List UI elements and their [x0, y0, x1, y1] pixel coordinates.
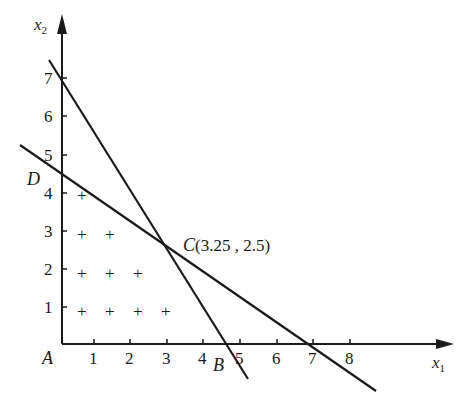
point-b-label: B	[213, 355, 224, 375]
y-tick-4: 4	[44, 184, 53, 203]
cross-marker: +	[133, 264, 143, 283]
x-tick-4: 4	[198, 349, 207, 368]
x-axis: x1 1 2 3 4 5 6 7 8	[62, 339, 454, 374]
x-tick-6: 6	[272, 349, 281, 368]
integer-points: + + + + + + + + + +	[77, 186, 171, 321]
y-tick-3: 3	[44, 222, 53, 241]
cross-marker: +	[77, 302, 87, 321]
y-tick-6: 6	[44, 107, 53, 126]
cross-marker: +	[133, 302, 143, 321]
cross-marker: +	[105, 264, 115, 283]
y-tick-7: 7	[44, 69, 53, 88]
x-tick-8: 8	[345, 349, 354, 368]
cross-marker: +	[161, 302, 171, 321]
x-axis-arrow-icon	[436, 339, 454, 349]
cross-marker: +	[77, 186, 87, 205]
cross-marker: +	[77, 225, 87, 244]
steep-constraint-line	[49, 60, 248, 379]
point-d-label: D	[26, 169, 40, 189]
point-c-label: C(3.25 , 2.5)	[183, 235, 270, 255]
y-tick-1: 1	[44, 298, 53, 317]
cross-marker: +	[105, 302, 115, 321]
x-tick-1: 1	[89, 349, 98, 368]
point-a-label: A	[41, 348, 54, 368]
x-tick-7: 7	[308, 349, 317, 368]
lp-diagram: x2 1 2 3 4 5 6 7 x1	[0, 0, 473, 415]
x-tick-3: 3	[162, 349, 171, 368]
x-tick-2: 2	[125, 349, 134, 368]
y-axis-arrow-icon	[57, 14, 67, 34]
cross-marker: +	[105, 225, 115, 244]
cross-marker: +	[77, 264, 87, 283]
y-axis-label: x2	[33, 15, 47, 36]
y-tick-2: 2	[44, 260, 53, 279]
x-axis-label: x1	[431, 353, 445, 374]
